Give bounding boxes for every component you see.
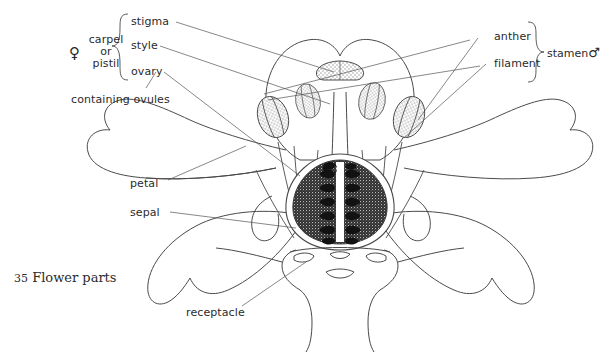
anthers-group [252,81,430,142]
label-sepal: sepal [130,206,160,219]
nectary-right [366,253,386,262]
anther-right-inner [356,81,388,122]
carpel-line-3: pistil [84,58,128,70]
anther-left-inner [293,82,323,120]
figure-number: 35 [14,272,28,285]
receptacle-right-shoulder [398,248,464,262]
receptacle-group [216,248,464,352]
sepal-right [384,211,534,304]
stamen-text: stamen [547,47,588,60]
nectary-left [294,253,314,262]
label-receptacle: receptacle [186,306,245,319]
nectary-center-lower [326,269,354,278]
figure-caption: 35 Flower parts [14,270,117,285]
label-containing-ovules: containing ovules [71,93,170,106]
receptacle-body [282,250,398,352]
leader-style [160,46,330,104]
anther-right-outer [388,92,430,141]
petal-left-upper [87,99,286,179]
leader-receptacle [242,262,306,306]
label-petal: petal [130,177,158,190]
nectary-center-upper [330,252,350,259]
figure-canvas: ♀ carpel or pistil stigma style ovary co… [0,0,604,352]
petal-left-lower-edge [146,168,276,179]
label-ovary: ovary [131,65,163,78]
stamen-group-label: stamen♂ [547,45,600,60]
leader-stigma [176,22,334,72]
anther-left-outer [252,92,294,141]
figure-title: Flower parts [32,270,116,285]
carpel-group-label: carpel or pistil [84,34,128,70]
sepal-left-inner-curl [252,196,279,241]
label-stigma: stigma [131,15,169,28]
label-filament: filament [494,57,540,70]
mars-symbol: ♂ [588,45,600,60]
venus-symbol: ♀ [69,44,80,62]
label-anther: anther [494,30,531,43]
ovary-septum [336,162,344,242]
receptacle-left-shoulder [216,248,282,262]
label-style: style [131,39,158,52]
